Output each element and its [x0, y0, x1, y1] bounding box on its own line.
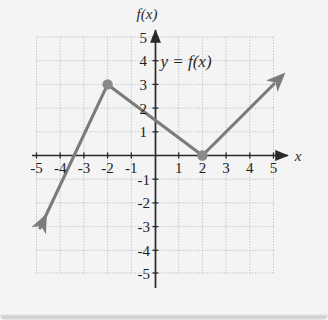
- x-tick-label: 1: [175, 160, 183, 176]
- y-tick-label: -5: [138, 266, 151, 282]
- graph-plot: f(x) x y = f(x) -5 -4 -3 -2 -1 1 2 3 4 5…: [0, 0, 328, 320]
- y-tick-label: 4: [140, 53, 148, 69]
- figure-container: f(x) x y = f(x) -5 -4 -3 -2 -1 1 2 3 4 5…: [0, 0, 328, 320]
- curve-right-ray: [202, 84, 274, 156]
- y-tick-label: -2: [138, 195, 151, 211]
- y-tick-label: -1: [138, 172, 151, 188]
- vertex-point-a: [102, 79, 112, 89]
- x-axis-label: x: [294, 148, 302, 164]
- y-tick-label: 5: [140, 30, 148, 46]
- x-tick-label: -5: [30, 160, 43, 176]
- x-tick-label: 4: [246, 160, 254, 176]
- x-tick-label: -1: [125, 160, 138, 176]
- y-tick-label: 3: [140, 77, 148, 93]
- y-tick-label: 1: [140, 124, 148, 140]
- x-tick-label: -3: [78, 160, 91, 176]
- y-axis-label: f(x): [137, 6, 158, 23]
- y-tick-label: 2: [140, 101, 148, 117]
- x-tick-label: -4: [54, 160, 67, 176]
- function-label: y = f(x): [158, 52, 211, 71]
- x-tick-label: 3: [222, 160, 230, 176]
- page-bottom-edge: [0, 310, 328, 320]
- x-tick-label: 5: [270, 160, 278, 176]
- y-tick-label: -4: [138, 243, 151, 259]
- x-tick-label: 2: [199, 160, 207, 176]
- y-tick-label: -3: [138, 219, 151, 235]
- x-tick-label: -2: [101, 160, 114, 176]
